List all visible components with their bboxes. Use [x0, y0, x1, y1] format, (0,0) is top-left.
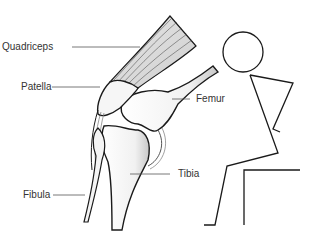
joint-capsule	[148, 128, 166, 169]
label-femur: Femur	[196, 93, 225, 105]
label-quadriceps: Quadriceps	[2, 41, 53, 53]
label-fibula: Fibula	[23, 189, 50, 201]
chair	[244, 170, 300, 225]
fibula-bone	[84, 128, 105, 222]
quadriceps-muscle	[110, 16, 196, 88]
stick-figure	[204, 32, 293, 225]
tibia-bone	[102, 126, 149, 230]
knee-diagram	[0, 0, 310, 249]
stick-figure-head	[223, 32, 263, 72]
label-tibia: Tibia	[178, 168, 199, 180]
label-patella: Patella	[21, 81, 52, 93]
stick-figure-arm	[250, 75, 293, 132]
